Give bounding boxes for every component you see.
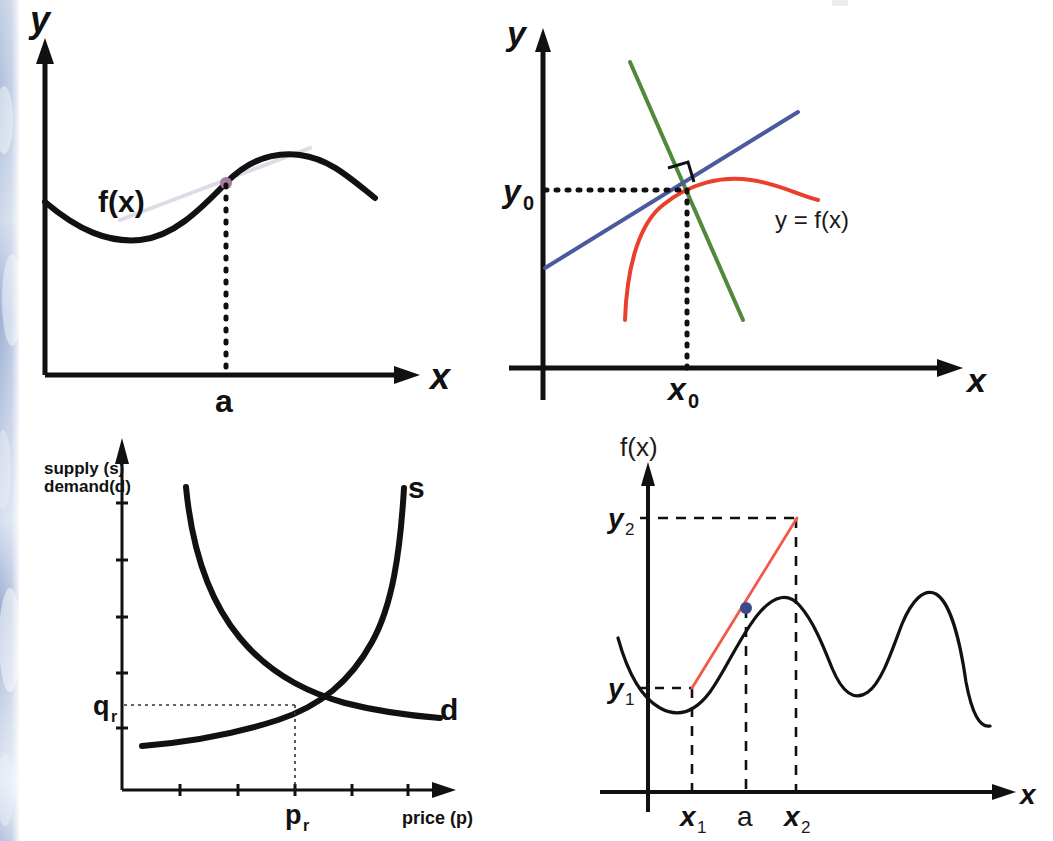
- function-curve: [618, 592, 990, 726]
- supply-curve-label: s: [408, 471, 425, 504]
- function-curve: [45, 154, 375, 240]
- qr-base: q: [93, 691, 110, 721]
- y-axis: [535, 28, 551, 400]
- curve-equation-label: y = f(x): [775, 206, 849, 233]
- y-axis-label: f(x): [620, 432, 658, 462]
- a-tick-label: a: [737, 801, 753, 832]
- x2-subscript: 2: [801, 818, 810, 837]
- x1-subscript: 1: [697, 818, 706, 837]
- x-axis: [600, 784, 1016, 800]
- x-tick-label-a: a: [215, 383, 233, 419]
- x1-base: x: [678, 801, 697, 832]
- tangent-line-blue: [545, 112, 798, 268]
- x0-tick-label: x 0: [666, 371, 699, 412]
- x-axis-label: price (p): [402, 808, 473, 828]
- y0-subscript: 0: [523, 192, 534, 214]
- x0-subscript: 0: [688, 390, 699, 412]
- x-axis: [509, 359, 963, 377]
- tangent-line: [120, 148, 310, 220]
- y1-tick-label: y 1: [606, 673, 634, 709]
- x2-tick-label: x 2: [782, 801, 810, 837]
- x-axis: [45, 366, 420, 384]
- x0-base: x: [666, 371, 687, 407]
- y1-subscript: 1: [625, 690, 634, 709]
- panel-orthogonal-lines: y x y 0 x 0 y = f(x): [455, 0, 1053, 420]
- pr-subscript: r: [303, 817, 309, 834]
- curve-label: f(x): [98, 185, 145, 218]
- top-edge-artifact: [832, 0, 848, 6]
- y2-subscript: 2: [625, 520, 634, 539]
- pr-base: p: [285, 800, 302, 830]
- y-axis: [641, 462, 655, 812]
- x-axis-label: x: [965, 361, 988, 399]
- panel-tangent-at-a: y x f(x) a: [0, 0, 470, 420]
- y2-tick-label: y 2: [606, 503, 634, 539]
- y2-base: y: [606, 503, 625, 534]
- diagram-page: y x f(x) a: [0, 0, 1053, 841]
- x-axis-label: x: [428, 356, 452, 397]
- y0-tick-label: y 0: [501, 173, 534, 214]
- qr-label: q r: [93, 691, 117, 725]
- y-axis-label: y: [505, 14, 528, 52]
- panel-secant-line: f(x) x y 2 y 1 x 1 a x 2: [520, 420, 1053, 841]
- y1-base: y: [606, 673, 625, 704]
- demand-curve-label: d: [440, 693, 458, 726]
- point-at-a: [740, 602, 752, 614]
- y-axis-label: y: [28, 0, 52, 40]
- qr-subscript: r: [111, 708, 117, 725]
- x-axis-label: x: [1018, 779, 1037, 810]
- y0-base: y: [501, 173, 523, 209]
- panel-supply-demand: supply (s) demand(d) price (p) s d q r p…: [0, 420, 500, 841]
- x1-tick-label: x 1: [678, 801, 706, 837]
- x-axis: [122, 782, 456, 798]
- x2-base: x: [782, 801, 801, 832]
- y-axis-label-line1: supply (s): [44, 459, 124, 478]
- pr-label: p r: [285, 800, 309, 834]
- y-axis-label-line2: demand(d): [44, 477, 131, 496]
